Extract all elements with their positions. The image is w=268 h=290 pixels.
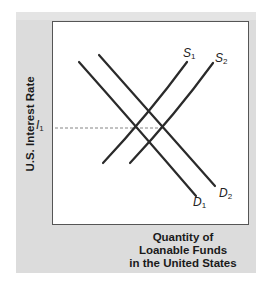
i1-label-sub: 1 bbox=[39, 124, 43, 133]
x-axis-label-line-2: Loanable Funds bbox=[113, 244, 253, 257]
i1-label: I1 bbox=[36, 118, 44, 133]
d1-label-main: D bbox=[193, 195, 202, 209]
x-axis-label-line-1: Quantity of bbox=[113, 231, 253, 244]
supply-curve-s2 bbox=[130, 63, 213, 163]
demand-curve-d1 bbox=[79, 62, 196, 196]
d1-label-sub: 1 bbox=[202, 201, 206, 210]
y-axis-label: U.S. Interest Rate bbox=[24, 76, 36, 171]
s1-label-main: S bbox=[183, 46, 191, 60]
d1-label: D1 bbox=[193, 195, 206, 210]
x-axis-label: Quantity of Loanable Funds in the United… bbox=[113, 231, 253, 270]
demand-curve-d2 bbox=[99, 55, 215, 186]
s2-label: S2 bbox=[215, 51, 227, 66]
s2-label-main: S bbox=[215, 51, 223, 65]
x-axis-label-line-3: in the United States bbox=[113, 257, 253, 270]
d2-label-sub: 2 bbox=[228, 192, 232, 201]
s1-label: S1 bbox=[183, 46, 195, 61]
d2-label-main: D bbox=[219, 186, 228, 200]
s1-label-sub: 1 bbox=[191, 52, 195, 61]
s2-label-sub: 2 bbox=[223, 57, 227, 66]
d2-label: D2 bbox=[219, 186, 232, 201]
